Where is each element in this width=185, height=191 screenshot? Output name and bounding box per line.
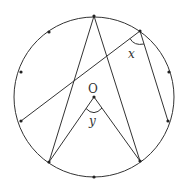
radius-o-b <box>49 97 94 162</box>
radius-o-c <box>94 97 140 161</box>
point-a <box>92 14 95 17</box>
angle-y-arc <box>86 108 102 113</box>
angle-y-label: y <box>88 114 96 128</box>
angle-x-label: x <box>128 47 135 61</box>
angle-x-arc <box>130 39 144 45</box>
point-c <box>138 159 141 162</box>
circle-diagram: O x y <box>0 0 185 191</box>
point-l1 <box>19 70 22 73</box>
point-r1 <box>167 70 170 73</box>
point-d <box>92 175 95 178</box>
chord-l-p <box>21 31 140 121</box>
point-l <box>19 119 22 122</box>
point-p <box>138 29 141 32</box>
point-u1 <box>47 30 50 33</box>
points <box>19 14 170 178</box>
center-label: O <box>88 82 98 96</box>
point-b <box>47 160 50 163</box>
chord-a-c <box>94 16 140 161</box>
point-q <box>166 119 169 122</box>
